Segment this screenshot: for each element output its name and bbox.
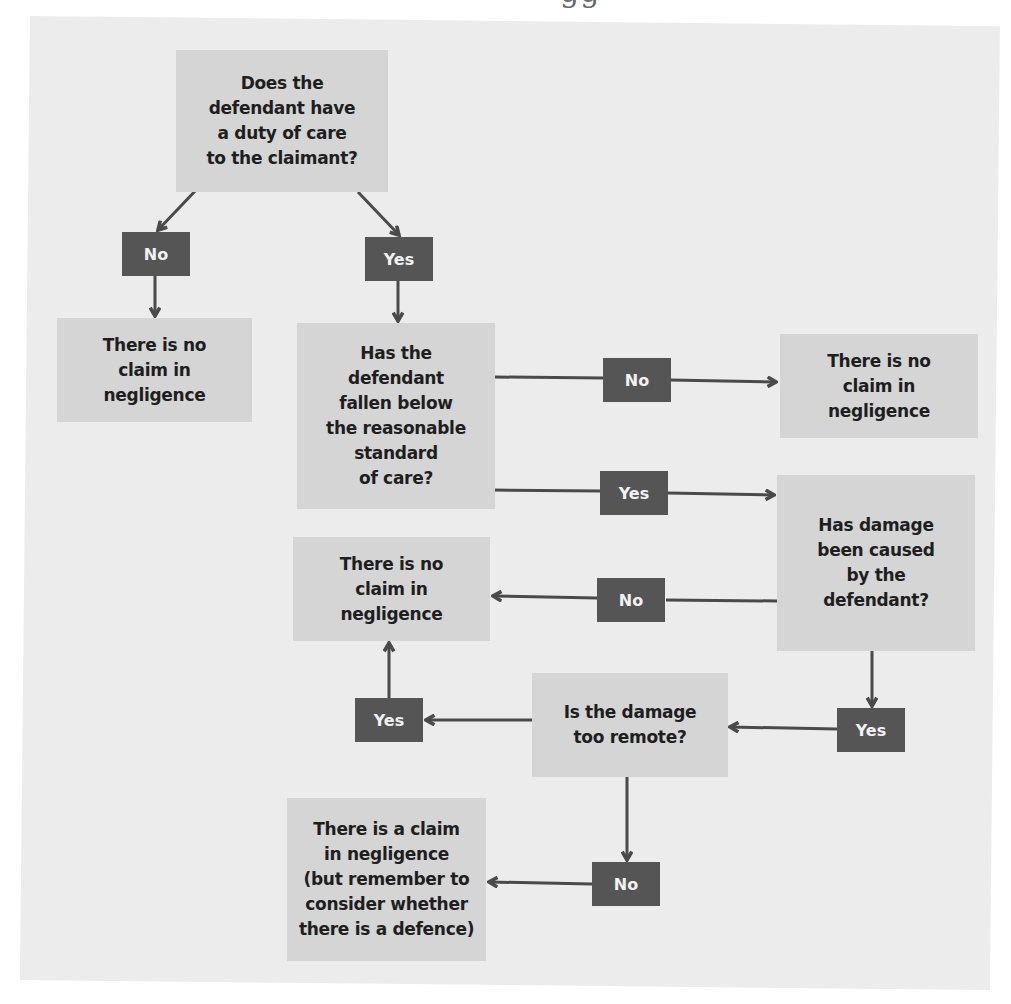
node-causation-question: Has damage been caused by the defendant?	[777, 475, 975, 651]
edge-causation-to-no	[666, 600, 777, 601]
label-causation-yes: Yes	[837, 708, 905, 752]
label-causation-no: No	[597, 578, 665, 622]
edge-no-to-claim	[489, 882, 592, 884]
node-no-claim-duty: There is no claim in negligence	[57, 318, 252, 422]
edge-duty-to-yes	[358, 192, 399, 235]
edge-yes-to-remote	[730, 727, 837, 729]
node-duty-of-care-question: Does the defendant have a duty of care t…	[176, 50, 388, 192]
edge-standard-to-yes	[493, 490, 600, 491]
edge-standard-to-no	[495, 377, 603, 378]
edge-no-to-noclaim3	[493, 596, 597, 598]
label-remote-no: No	[592, 862, 660, 906]
label-standard-yes: Yes	[600, 471, 668, 515]
edge-yes-to-causation	[668, 493, 774, 495]
node-standard-of-care-question: Has the defendant fallen below the reaso…	[297, 323, 495, 509]
label-remote-yes: Yes	[355, 698, 423, 742]
node-remoteness-question: Is the damage too remote?	[532, 673, 728, 777]
edge-no-to-noclaim2	[670, 380, 776, 382]
node-no-claim-standard: There is no claim in negligence	[780, 334, 978, 438]
edge-duty-to-no	[158, 188, 198, 230]
label-duty-yes: Yes	[365, 237, 433, 281]
label-duty-no: No	[122, 232, 190, 276]
node-no-claim-causation: There is no claim in negligence	[293, 537, 490, 641]
label-standard-no: No	[603, 358, 671, 402]
node-claim-exists: There is a claim in negligence (but reme…	[287, 798, 486, 961]
